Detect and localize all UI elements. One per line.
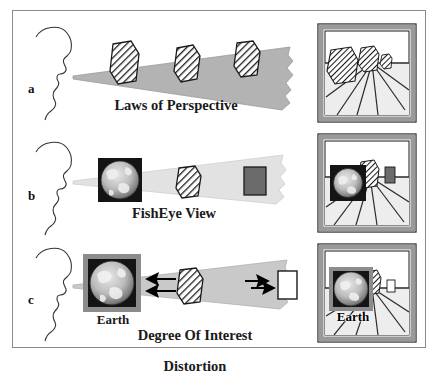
thumb-block-far-c bbox=[387, 280, 395, 292]
head-profile-b bbox=[36, 142, 71, 235]
thumbnail-c bbox=[318, 244, 416, 342]
thumbnail-a bbox=[318, 24, 416, 122]
earth-image-c bbox=[83, 254, 141, 312]
caption-line-1: Degree Of Interest bbox=[120, 328, 270, 344]
caption-fisheye-view: FishEye View bbox=[104, 206, 244, 222]
block-far-c bbox=[278, 271, 297, 299]
thumb-building-mid-a bbox=[358, 46, 379, 72]
thumb-earth-c bbox=[329, 267, 373, 311]
panel-letter-b: b bbox=[28, 188, 35, 204]
building-near-a bbox=[110, 41, 139, 84]
head-profile-c bbox=[36, 248, 71, 341]
panel-letter-c: c bbox=[28, 292, 34, 308]
thumbnail-b bbox=[318, 134, 416, 232]
thumb-building-near-a bbox=[327, 47, 358, 84]
building-far-a bbox=[234, 41, 260, 77]
building-mid-a bbox=[174, 45, 200, 82]
caption-degree-of-interest-distortion: Degree Of Interest Distortion bbox=[120, 312, 270, 375]
panel-letter-a: a bbox=[28, 81, 35, 97]
thumb-earth-b bbox=[330, 165, 366, 201]
block-far-b bbox=[244, 167, 266, 195]
thumb-block-far-b bbox=[385, 167, 395, 183]
thumb-building-far-a bbox=[380, 54, 392, 69]
building-mid-b bbox=[176, 166, 201, 198]
earth-image-b bbox=[98, 158, 142, 202]
caption-laws-of-perspective: Laws of Perspective bbox=[96, 98, 256, 114]
building-mid-c bbox=[177, 268, 203, 304]
caption-line-2: Distortion bbox=[120, 359, 270, 375]
thumb-earth-label-c: Earth bbox=[326, 310, 380, 324]
head-profile-a bbox=[36, 27, 71, 120]
